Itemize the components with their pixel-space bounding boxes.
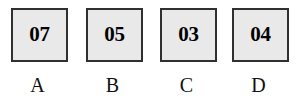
value-box-caption: B [75,74,150,96]
value-box-text: 03 [178,24,198,45]
value-box[interactable]: 03 [160,8,217,62]
value-box-caption: D [221,74,296,96]
value-box-caption: C [149,74,224,96]
value-box-group: 04 D [221,0,296,106]
value-box-caption: A [0,74,75,96]
labeled-value-boxes-figure: 07 A 05 B 03 C 04 D [0,0,300,106]
value-box-text: 04 [250,24,270,45]
value-box-group: 03 C [149,0,224,106]
value-box[interactable]: 04 [232,8,289,62]
value-box[interactable]: 07 [11,8,68,62]
value-box[interactable]: 05 [86,8,143,62]
value-box-text: 07 [29,24,49,45]
value-box-group: 07 A [0,0,75,106]
value-box-text: 05 [104,24,124,45]
value-box-group: 05 B [75,0,150,106]
